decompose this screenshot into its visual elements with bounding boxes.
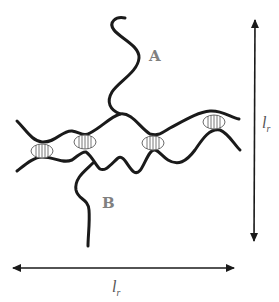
chain-b-label: B bbox=[102, 194, 115, 212]
vertical-dimension-label: lr bbox=[262, 114, 270, 134]
chain-b-tail bbox=[76, 163, 93, 246]
chain-a-tail bbox=[109, 18, 139, 114]
polymer-network-diagram: A B lr lr bbox=[0, 0, 279, 302]
coil-crosslink-icon bbox=[142, 136, 164, 150]
diagram-graphics bbox=[0, 0, 279, 302]
dimension-subscript: r bbox=[116, 287, 120, 298]
dimension-subscript: r bbox=[266, 123, 270, 134]
chain-a-label: A bbox=[149, 47, 161, 65]
coil-crosslink-icon bbox=[74, 135, 96, 149]
coil-crosslink-icon bbox=[203, 115, 225, 129]
vertical-dimension-arrow bbox=[254, 20, 255, 241]
coil-crosslink-icon bbox=[31, 144, 53, 158]
horizontal-dimension-label: lr bbox=[112, 278, 120, 298]
